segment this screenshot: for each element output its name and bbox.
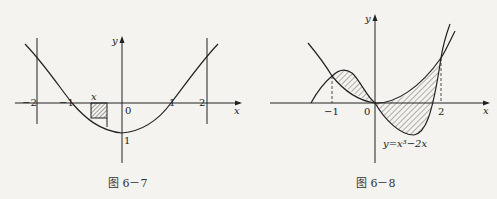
y-axis-arrow-icon — [120, 36, 125, 43]
figure-6-8: y x −1 0 2 y=x³−2x 图 6－8 — [250, 0, 497, 199]
strip-label: x — [91, 92, 97, 102]
shaded-region-right — [375, 58, 441, 135]
figure-6-7-plot — [0, 0, 250, 199]
figure-6-8-plot — [250, 0, 497, 199]
tick-two: 2 — [438, 107, 444, 117]
y-axis-label: y — [365, 14, 371, 24]
tick-neg2: −2 — [22, 98, 37, 108]
tick-two: 2 — [199, 98, 205, 108]
figure-6-7: y x −2 −1 0 1 2 1 x 图 6－7 — [0, 0, 250, 199]
figure-caption: 图 6－7 — [108, 174, 148, 190]
x-axis-label: x — [483, 106, 489, 116]
y-axis-arrow-icon — [373, 14, 378, 21]
y-axis-label: y — [112, 36, 118, 46]
x-axis-label: x — [234, 106, 240, 116]
y-intercept-label: 1 — [124, 136, 130, 146]
tick-zero: 0 — [125, 106, 131, 116]
shaded-strip — [91, 103, 107, 118]
tick-neg1: −1 — [324, 107, 339, 117]
tick-one: 1 — [169, 98, 175, 108]
tick-neg1: −1 — [59, 98, 74, 108]
tick-zero: 0 — [364, 107, 370, 117]
curve-label: y=x³−2x — [383, 139, 427, 149]
figure-caption: 图 6－8 — [356, 174, 396, 190]
